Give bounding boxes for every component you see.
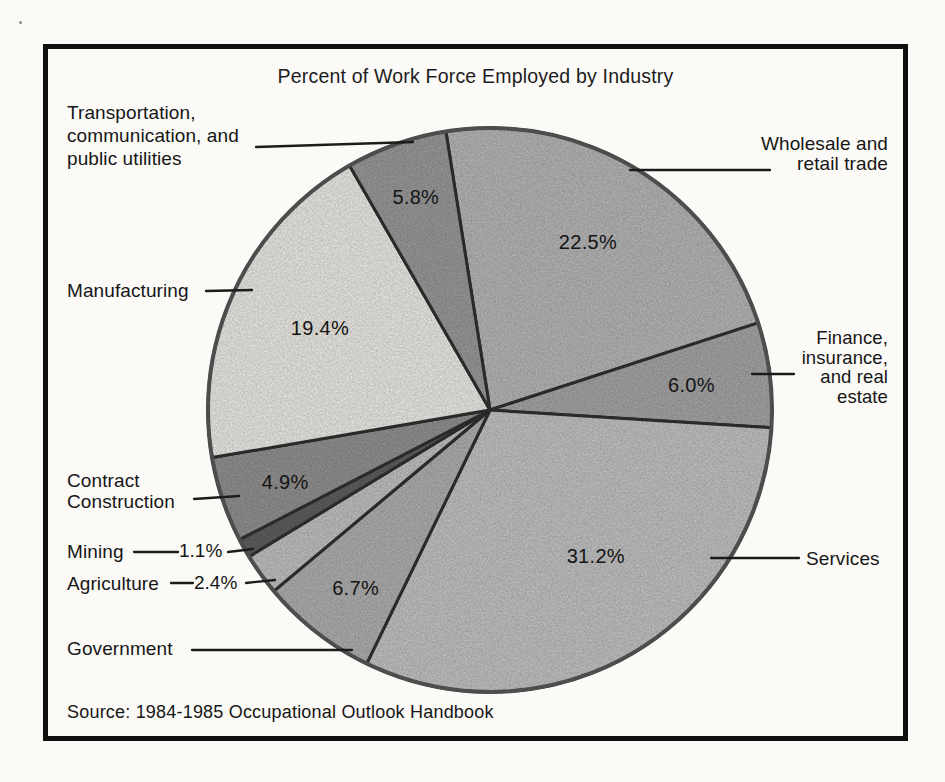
pct-label-transportation: 5.8%: [392, 186, 439, 208]
pct-label-wholesale: 22.5%: [559, 231, 617, 253]
leader-line-manufacturing: [206, 290, 252, 291]
callout-transportation: Transportation, communication, and publi…: [67, 101, 239, 170]
callout-finance-insurance-real-estate: Finance, insurance, and real estate: [740, 328, 888, 406]
callout-mining: Mining: [67, 540, 124, 563]
callout-wholesale-retail: Wholesale and retail trade: [700, 134, 888, 174]
source-note: Source: 1984-1985 Occupational Outlook H…: [67, 702, 494, 723]
pct-label-contract: 4.9%: [262, 471, 309, 493]
pct-label-services: 31.2%: [567, 545, 625, 567]
callout-manufacturing: Manufacturing: [67, 279, 189, 302]
pct-label-government: 6.7%: [332, 577, 379, 599]
callout-government: Government: [67, 637, 173, 660]
scan-grain-texture: [200, 120, 780, 700]
pct-label-manufacturing: 19.4%: [291, 317, 349, 339]
mining-percent-value: 1.1%: [179, 540, 222, 562]
callout-agriculture: Agriculture: [67, 572, 159, 595]
agriculture-percent-value: 2.4%: [194, 572, 237, 594]
scanned-figure-page: Percent of Work Force Employed by Indust…: [0, 0, 945, 782]
pct-label-finance: 6.0%: [668, 374, 715, 396]
callout-services: Services: [806, 547, 880, 570]
callout-contract-construction: Contract Construction: [67, 470, 175, 512]
